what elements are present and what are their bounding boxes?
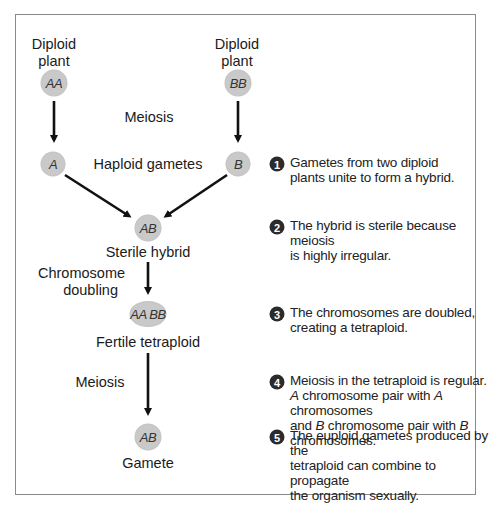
note-2-line-2: is highly irregular. (290, 248, 492, 263)
arrow-a-to-ab (65, 175, 129, 216)
label-chromosome-doubling: Chromosome doubling (38, 265, 118, 299)
note-4-line-2: A chromosome pair with A chromosomes (290, 388, 492, 418)
right-parent-label-line1: Diploid (215, 36, 259, 53)
label-meiosis-bottom: Meiosis (75, 374, 124, 391)
note-step-2: The hybrid is sterile because meiosis is… (290, 218, 492, 263)
label-chromosome-doubling-line2: doubling (38, 282, 118, 299)
note-5-line-1: The euploid gametes produced by the (290, 428, 492, 458)
node-gamete-a: A (41, 152, 66, 177)
node-hybrid-ab: AB (135, 215, 162, 242)
badge-step-2: 2 (270, 220, 285, 235)
italic-a: A (434, 388, 443, 403)
left-parent-label-line2: plant (32, 53, 76, 70)
label-haploid-gametes: Haploid gametes (94, 156, 203, 173)
node-gamete-b: B (226, 152, 251, 177)
badge-step-4: 4 (270, 375, 285, 390)
arrow-b-to-ab (166, 175, 227, 216)
right-parent-label: Diploid plant (215, 36, 259, 70)
left-parent-label: Diploid plant (32, 36, 76, 70)
text: chromosomes (290, 403, 373, 418)
note-5-line-3: the organism sexually. (290, 488, 492, 503)
badge-step-5: 5 (270, 430, 285, 445)
badge-step-1: 1 (270, 157, 285, 172)
note-3-line-1: The chromosomes are doubled, (290, 305, 475, 320)
label-sterile-hybrid: Sterile hybrid (106, 244, 191, 261)
italic-a: A (290, 388, 299, 403)
text: chromosome pair with (299, 388, 434, 403)
note-step-3: The chromosomes are doubled, creating a … (290, 305, 475, 335)
note-step-5: The euploid gametes produced by the tetr… (290, 428, 492, 503)
note-5-line-2: tetraploid can combine to propagate (290, 458, 492, 488)
badge-step-3: 3 (270, 307, 285, 322)
note-3-line-2: creating a tetraploid. (290, 320, 475, 335)
node-aa: AA (41, 70, 68, 97)
node-bb: BB (225, 70, 252, 97)
note-1-line-1: Gametes from two diploid (290, 155, 454, 170)
label-meiosis-top: Meiosis (124, 109, 173, 126)
label-chromosome-doubling-line1: Chromosome (38, 265, 118, 282)
node-tetraploid-aabb: AA BB (130, 301, 167, 327)
node-final-gamete-ab: AB (135, 424, 162, 451)
label-gamete: Gamete (122, 455, 174, 472)
note-step-1: Gametes from two diploid plants unite to… (290, 155, 454, 185)
note-1-line-2: plants unite to form a hybrid. (290, 170, 454, 185)
note-2-line-1: The hybrid is sterile because meiosis (290, 218, 492, 248)
note-4-line-1: Meiosis in the tetraploid is regular. (290, 373, 492, 388)
right-parent-label-line2: plant (215, 53, 259, 70)
label-fertile-tetraploid: Fertile tetraploid (96, 334, 200, 351)
left-parent-label-line1: Diploid (32, 36, 76, 53)
